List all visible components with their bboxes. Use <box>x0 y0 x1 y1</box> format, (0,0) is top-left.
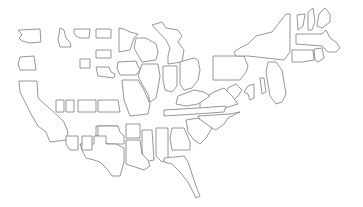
state-ohio[interactable] <box>180 58 200 90</box>
state-connecticut[interactable] <box>292 50 314 62</box>
state-delaware[interactable] <box>260 78 266 94</box>
state-indiana[interactable] <box>163 66 177 92</box>
state-idaho[interactable] <box>58 28 71 47</box>
state-arizona[interactable] <box>66 136 78 150</box>
state-south-dakota[interactable] <box>96 67 115 78</box>
state-georgia[interactable] <box>170 128 190 150</box>
state-new-york[interactable] <box>234 14 290 60</box>
state-florida[interactable] <box>164 156 200 198</box>
state-alabama[interactable] <box>156 128 168 162</box>
state-utah[interactable] <box>56 100 64 112</box>
state-rhode-island[interactable] <box>314 48 324 62</box>
state-kansas[interactable] <box>98 100 120 112</box>
state-new-jersey[interactable] <box>266 62 286 104</box>
us-states-map <box>0 0 363 207</box>
state-maine[interactable] <box>317 8 330 28</box>
state-maryland[interactable] <box>244 84 254 100</box>
state-washington[interactable] <box>18 29 41 43</box>
state-nevada[interactable] <box>66 100 74 112</box>
state-montana[interactable] <box>74 29 90 38</box>
state-wyoming[interactable] <box>96 29 111 38</box>
state-colorado[interactable] <box>78 100 96 112</box>
state-nebraska[interactable] <box>80 59 90 68</box>
state-arkansas[interactable] <box>126 124 140 138</box>
states-layer <box>18 8 340 198</box>
state-north-dakota[interactable] <box>96 50 111 58</box>
state-new-hampshire[interactable] <box>308 8 315 30</box>
state-vermont[interactable] <box>297 14 305 30</box>
state-pennsylvania[interactable] <box>213 56 248 80</box>
state-iowa[interactable] <box>117 61 140 75</box>
state-wisconsin[interactable] <box>134 38 158 62</box>
state-oregon[interactable] <box>18 56 36 70</box>
state-new-mexico[interactable] <box>82 136 92 150</box>
